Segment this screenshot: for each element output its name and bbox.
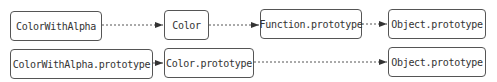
node-colorwithalpha: ColorWithAlpha (10, 11, 102, 41)
node-object-prototype-top: Object.prototype (388, 9, 486, 39)
node-color: Color (164, 10, 209, 40)
node-colorwithalpha-prototype: ColorWithAlpha.prototype (10, 49, 153, 79)
node-function-prototype: Function.prototype (260, 9, 362, 39)
node-object-prototype-bottom: Object.prototype (388, 47, 486, 77)
node-color-prototype: Color.prototype (164, 48, 254, 78)
